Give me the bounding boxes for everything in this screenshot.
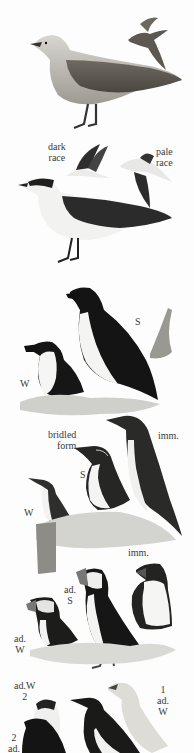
bird-illustrations bbox=[0, 0, 194, 753]
skua-standing-pale bbox=[18, 178, 172, 262]
label-bridled: bridled bbox=[48, 429, 76, 440]
label-puffin-adult-winter: ad. W bbox=[14, 633, 26, 655]
label-guillemot-summer: S bbox=[80, 469, 86, 480]
label-guillemot-winter: W bbox=[24, 507, 33, 518]
label-s: S bbox=[64, 595, 76, 606]
label-ad: ad. bbox=[8, 743, 20, 753]
label-w: W bbox=[157, 706, 169, 717]
label-bridled-form: bridled form bbox=[48, 429, 76, 451]
label-puffin-immature: imm. bbox=[128, 547, 149, 558]
bird-illustration-plate: dark race pale race S W bridled form imm… bbox=[0, 0, 194, 753]
skua-standing-dark bbox=[30, 35, 182, 128]
label-razorbill-summer: S bbox=[135, 316, 141, 327]
label-pale: pale bbox=[156, 146, 173, 157]
label-number-1: 1 bbox=[157, 684, 169, 695]
label-guillemot-immature: imm. bbox=[158, 430, 179, 441]
razorbill-winter bbox=[24, 342, 84, 396]
label-bottom-left: 2 ad. bbox=[8, 732, 20, 753]
label-puffin-adult-summer: ad. S bbox=[64, 584, 76, 606]
label-form: form bbox=[48, 440, 76, 451]
label-razorbill-winter: W bbox=[20, 378, 29, 389]
label-ad: ad. bbox=[14, 633, 26, 644]
label-top-left: ad.W 2 bbox=[14, 680, 35, 702]
label-w: W bbox=[14, 644, 26, 655]
label-ad: ad. bbox=[64, 584, 76, 595]
puffin-immature bbox=[132, 564, 172, 630]
label-race: race bbox=[48, 152, 66, 163]
label-number-2: 2 bbox=[8, 732, 20, 743]
label-ad: ad. bbox=[157, 695, 169, 706]
label-race: race bbox=[156, 157, 173, 168]
label-dark: dark bbox=[48, 141, 66, 152]
label-number-2: 2 bbox=[14, 691, 35, 702]
label-ad-w: ad.W bbox=[14, 680, 35, 691]
label-pale-race: pale race bbox=[156, 146, 173, 168]
grass-tuft bbox=[30, 643, 176, 665]
label-right: 1 ad. W bbox=[157, 684, 169, 717]
skua-flying-dark bbox=[128, 18, 168, 70]
label-dark-race: dark race bbox=[48, 141, 66, 163]
skua-flying-pale-1 bbox=[66, 144, 110, 178]
guillemot-winter bbox=[28, 478, 72, 523]
